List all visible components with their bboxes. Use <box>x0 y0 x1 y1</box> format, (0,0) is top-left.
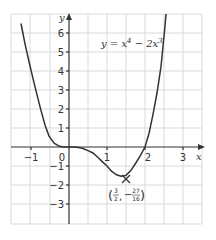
svg-text:−1: −1 <box>24 152 39 163</box>
svg-text:27: 27 <box>132 187 140 194</box>
svg-text:6: 6 <box>58 28 64 39</box>
svg-text:2: 2 <box>145 152 151 163</box>
svg-text:2: 2 <box>114 195 118 202</box>
svg-text:): ) <box>140 188 145 203</box>
svg-text:4: 4 <box>58 66 64 77</box>
svg-text:3: 3 <box>180 152 186 163</box>
graph: y x 6 5 4 3 2 1 −1 −2 −3 −1 0 1 2 3 ( 3 … <box>0 0 216 240</box>
svg-text:,: , <box>119 191 122 202</box>
svg-text:3: 3 <box>114 187 118 194</box>
y-axis-label: y <box>58 12 65 23</box>
x-axis-label: x <box>196 151 202 162</box>
svg-text:1: 1 <box>104 152 110 163</box>
svg-text:2: 2 <box>58 104 64 115</box>
equation-label: y = x4 − 2x3 <box>100 37 163 49</box>
svg-text:−2: −2 <box>49 180 64 191</box>
svg-text:0: 0 <box>59 152 65 163</box>
svg-text:(: ( <box>108 188 113 203</box>
svg-text:3: 3 <box>58 85 64 96</box>
svg-text:1: 1 <box>58 123 64 134</box>
svg-text:−: − <box>124 189 132 200</box>
svg-text:16: 16 <box>132 195 140 202</box>
svg-text:−3: −3 <box>49 199 64 210</box>
minimum-point-label: ( 3 2 , − 27 16 ) <box>108 187 145 203</box>
y-tick-labels: 6 5 4 3 2 1 −1 −2 −3 <box>49 28 64 210</box>
x-tick-labels: −1 0 1 2 3 <box>24 152 187 163</box>
svg-text:5: 5 <box>58 47 64 58</box>
